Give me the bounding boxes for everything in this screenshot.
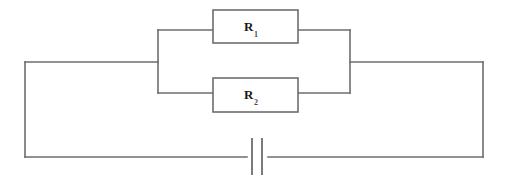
resistor-2-label: R2 [244, 87, 258, 105]
resistor-2-symbol: R [244, 87, 254, 102]
resistor-2-subscript: 2 [254, 98, 258, 107]
circuit-diagram-figure: R1 R2 [0, 0, 508, 184]
resistor-1-label: R1 [244, 19, 258, 37]
resistor-1-symbol: R [244, 19, 254, 34]
resistor-1-subscript: 1 [254, 30, 258, 39]
